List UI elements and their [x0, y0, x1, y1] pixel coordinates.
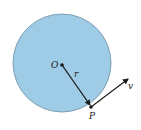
disk [13, 14, 111, 112]
surface-label: P [88, 111, 96, 121]
center-label: O [51, 60, 59, 70]
center-point [60, 63, 64, 67]
surface-point [89, 105, 93, 109]
circular-motion-diagram: O r P v [0, 0, 141, 130]
radius-label: r [74, 69, 79, 79]
velocity-label: v [128, 81, 133, 91]
